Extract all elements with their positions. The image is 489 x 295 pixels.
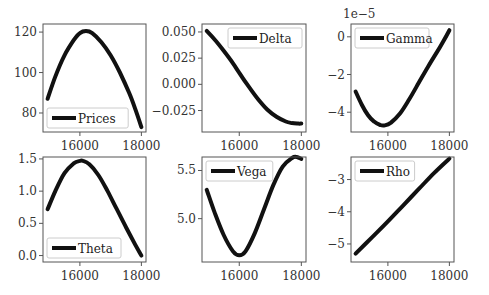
y-tick-label: −5: [327, 237, 345, 251]
x-tick-label: 16000: [61, 139, 99, 153]
y-tick-label: 0.050: [162, 25, 196, 39]
x-tick-label: 16000: [369, 139, 407, 153]
y-tick-label: 120: [14, 25, 37, 39]
x-tick-label: 16000: [220, 139, 258, 153]
offset-text: 1e−5: [343, 7, 375, 21]
y-tick-label: 0.0: [18, 249, 37, 263]
x-tick-label: 18000: [122, 139, 160, 153]
legend: Prices: [47, 108, 128, 128]
y-tick-label: −4: [327, 105, 345, 119]
legend-label: Delta: [259, 32, 292, 46]
figure: 160001800080100120Prices1600018000−0.025…: [0, 0, 489, 295]
x-tick-label: 16000: [369, 269, 407, 283]
legend-label: Gamma: [386, 32, 433, 46]
x-tick-label: 18000: [282, 139, 320, 153]
y-tick-label: −3: [327, 173, 345, 187]
y-tick-label: 5.0: [177, 212, 196, 226]
y-tick-label: −0.025: [152, 104, 196, 118]
subplot-vega: 16000180005.05.5Vega: [177, 157, 321, 283]
y-tick-label: −2: [327, 68, 345, 82]
legend: Rho: [355, 161, 415, 181]
legend: Theta: [47, 238, 121, 258]
y-tick-label: 5.5: [177, 163, 196, 177]
y-tick-label: 1.5: [18, 152, 37, 166]
x-tick-label: 18000: [282, 269, 320, 283]
legend: Gamma: [355, 28, 433, 48]
y-tick-label: 100: [14, 66, 37, 80]
legend-label: Vega: [236, 165, 267, 179]
x-tick-label: 16000: [220, 269, 258, 283]
x-tick-label: 16000: [61, 269, 99, 283]
subplot-gamma: 1600018000−4−201e−5Gamma: [327, 7, 468, 153]
legend-label: Theta: [78, 242, 113, 256]
subplot-rho: 1600018000−5−4−3Rho: [327, 157, 468, 283]
legend: Vega: [206, 161, 273, 181]
y-tick-label: 0.5: [18, 216, 37, 230]
y-tick-label: 0.000: [162, 77, 196, 91]
y-tick-label: 80: [22, 106, 37, 120]
y-tick-label: 1.0: [18, 184, 37, 198]
subplot-theta: 16000180000.00.51.01.5Theta: [18, 152, 161, 283]
figure-canvas: 160001800080100120Prices1600018000−0.025…: [0, 0, 489, 295]
subplot-delta: 1600018000−0.0250.0000.0250.050Delta: [152, 24, 321, 153]
x-tick-label: 18000: [430, 139, 468, 153]
subplot-prices: 160001800080100120Prices: [14, 24, 160, 153]
legend-label: Rho: [386, 165, 410, 179]
x-tick-label: 18000: [122, 269, 160, 283]
y-tick-label: −4: [327, 205, 345, 219]
legend-label: Prices: [78, 112, 116, 126]
y-tick-label: 0.025: [162, 51, 196, 65]
y-tick-label: 0: [337, 30, 345, 44]
legend: Delta: [228, 28, 302, 48]
x-tick-label: 18000: [430, 269, 468, 283]
